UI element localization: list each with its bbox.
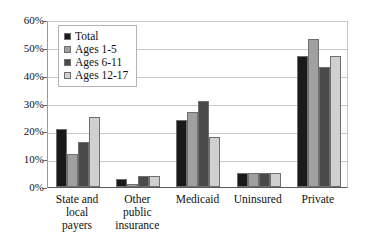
bar-group bbox=[229, 22, 289, 187]
y-axis-tick-mark bbox=[42, 77, 47, 78]
bar bbox=[248, 173, 259, 187]
x-axis-tick-label-line: insurance bbox=[97, 219, 177, 232]
legend-item-label: Ages 1-5 bbox=[75, 44, 117, 56]
y-axis-tick-mark bbox=[42, 105, 47, 106]
legend-item: Ages 6-11 bbox=[64, 56, 128, 69]
bar bbox=[67, 154, 78, 187]
bar bbox=[319, 67, 330, 187]
bar-chart: TotalAges 1-5Ages 6-11Ages 12-17 0%10%20… bbox=[0, 0, 369, 248]
chart-legend: TotalAges 1-5Ages 6-11Ages 12-17 bbox=[58, 25, 137, 87]
bar bbox=[149, 176, 160, 187]
legend-swatch-icon bbox=[64, 59, 71, 66]
legend-item-label: Ages 12-17 bbox=[75, 70, 128, 82]
y-axis-tick-label: 10% bbox=[0, 154, 44, 165]
bar bbox=[56, 129, 67, 187]
bar bbox=[116, 179, 127, 187]
legend-item: Ages 12-17 bbox=[64, 69, 128, 82]
x-axis-tick-label-line: public bbox=[97, 206, 177, 219]
bar-group bbox=[289, 22, 349, 187]
legend-item-label: Total bbox=[75, 31, 98, 43]
x-axis-tick-label-line: Private bbox=[278, 193, 358, 206]
y-axis-tick-label: 50% bbox=[0, 43, 44, 54]
bar bbox=[138, 176, 149, 187]
bar bbox=[259, 173, 270, 187]
y-axis-tick-mark bbox=[42, 21, 47, 22]
y-axis-tick-mark bbox=[42, 188, 47, 189]
bar bbox=[127, 184, 138, 187]
legend-item: Ages 1-5 bbox=[64, 43, 128, 56]
y-axis-tick-mark bbox=[42, 49, 47, 50]
bar bbox=[176, 120, 187, 187]
y-axis-tick-label: 0% bbox=[0, 182, 44, 193]
bar bbox=[270, 173, 281, 187]
bar bbox=[89, 117, 100, 187]
bar bbox=[297, 56, 308, 187]
bar bbox=[308, 39, 319, 187]
y-axis-tick-mark bbox=[42, 132, 47, 133]
legend-swatch-icon bbox=[64, 72, 71, 79]
bar bbox=[237, 173, 248, 187]
y-axis-tick-label: 60% bbox=[0, 15, 44, 26]
y-axis-tick-label: 40% bbox=[0, 71, 44, 82]
legend-item-label: Ages 6-11 bbox=[75, 57, 122, 69]
bar bbox=[78, 142, 89, 187]
bar bbox=[198, 101, 209, 187]
x-axis-tick-label: Private bbox=[278, 193, 358, 206]
y-axis-tick-label: 30% bbox=[0, 99, 44, 110]
y-axis-tick-mark bbox=[42, 160, 47, 161]
legend-item: Total bbox=[64, 30, 128, 43]
bar bbox=[187, 112, 198, 187]
bar bbox=[330, 56, 341, 187]
bar bbox=[209, 137, 220, 187]
legend-swatch-icon bbox=[64, 46, 71, 53]
legend-swatch-icon bbox=[64, 33, 71, 40]
bar-group bbox=[168, 22, 228, 187]
y-axis-tick-label: 20% bbox=[0, 126, 44, 137]
